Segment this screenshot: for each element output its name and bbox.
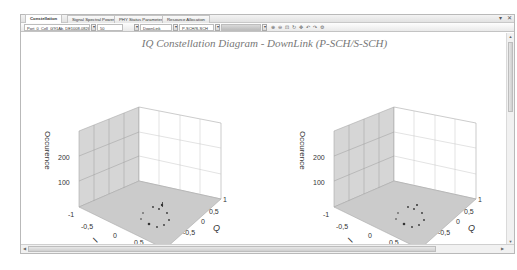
x-axis-label: I — [345, 236, 355, 244]
z-axis-label: Occurence — [298, 131, 307, 170]
tab-resource-allocation[interactable]: Resource Allocation — [162, 15, 210, 23]
tab-phy-status-parameter[interactable]: PHY Status Parameter — [114, 15, 167, 23]
pin-icon[interactable]: ▾ — [499, 14, 502, 21]
pan-icon[interactable]: ✥ — [298, 25, 303, 30]
chart-title: IQ Constellation Diagram - DownLink (P-S… — [21, 37, 508, 49]
direction-select-arrow-icon[interactable]: ▾ — [173, 24, 178, 31]
count-select[interactable]: 50 — [97, 24, 123, 31]
z-tick: 100 — [313, 179, 325, 186]
x-tick: 0 — [368, 232, 372, 239]
y-tick: 0 — [201, 218, 205, 225]
plot-right[interactable]: 200 100 Occurence -1 -0,5 0 0,5 1 I 1 0,… — [286, 59, 496, 249]
y-tick: -0,5 — [183, 229, 195, 236]
cell-select[interactable]: Port_0_Cell_0(91Ab, DE1008-0826, — [24, 24, 90, 31]
x-axis-label: I — [90, 236, 100, 244]
y-axis-label: Q — [213, 223, 220, 233]
plot-left[interactable]: 200 100 Occurence -1 -0,5 0 0,5 1 I 1 0,… — [31, 59, 231, 249]
count-select-arrow-icon[interactable]: ▾ — [134, 24, 139, 31]
rotate-icon[interactable]: ↻ — [291, 25, 296, 30]
y-axis-label: Q — [468, 223, 475, 233]
zoom-fit-icon[interactable]: ⊡ — [284, 25, 289, 30]
range-select-arrow-icon[interactable]: ▾ — [262, 24, 267, 31]
z-tick: 100 — [58, 179, 70, 186]
y-tick: 1 — [223, 196, 227, 203]
cell-select-arrow-icon[interactable]: ▾ — [91, 24, 96, 31]
scroll-up-icon[interactable]: ▲ — [507, 33, 514, 40]
tab-signal-spectral-power[interactable]: Signal Spectral Power — [67, 15, 119, 23]
vertical-scrollbar[interactable]: ▲ ▼ — [506, 33, 514, 245]
redo-icon[interactable]: ↷ — [312, 25, 317, 30]
horizontal-scrollbar[interactable]: ◀ ▶ — [21, 244, 514, 253]
x-tick: -0,5 — [336, 223, 348, 230]
z-tick: 200 — [313, 154, 325, 161]
z-axis-label: Occurence — [43, 131, 52, 170]
horizontal-scroll-thumb[interactable] — [28, 246, 436, 252]
y-tick: -0,5 — [438, 229, 450, 236]
constellation-window: Constellation Signal Spectral Power PHY … — [20, 14, 515, 254]
scroll-right-icon[interactable]: ▶ — [499, 245, 506, 252]
x-tick: -0,5 — [81, 223, 93, 230]
channel-select[interactable]: P-SCH/S-SCH — [179, 24, 214, 31]
range-select[interactable] — [221, 24, 261, 31]
y-tick: 0,5 — [464, 208, 474, 215]
x-tick: -1 — [323, 211, 329, 218]
zoom-out-icon[interactable]: ⊖ — [277, 25, 282, 30]
vertical-scroll-thumb[interactable] — [508, 42, 513, 112]
tab-bar: Constellation Signal Spectral Power PHY … — [21, 15, 514, 23]
tab-constellation[interactable]: Constellation — [25, 14, 62, 23]
x-tick: 0 — [113, 232, 117, 239]
close-icon[interactable]: ✕ — [507, 14, 512, 21]
x-tick: -1 — [68, 211, 74, 218]
y-tick: 0 — [456, 218, 460, 225]
direction-select[interactable]: DownLink — [140, 24, 172, 31]
toolbar: Port_0_Cell_0(91Ab, DE1008-0826, ▾ 50 ▾ … — [21, 23, 514, 32]
zoom-in-icon[interactable]: ⊕ — [270, 25, 275, 30]
scroll-left-icon[interactable]: ◀ — [21, 245, 28, 252]
chart-area: IQ Constellation Diagram - DownLink (P-S… — [21, 33, 508, 245]
settings-icon[interactable]: ⚙ — [319, 25, 324, 30]
y-tick: 1 — [478, 196, 482, 203]
z-tick: 200 — [58, 154, 70, 161]
undo-icon[interactable]: ↶ — [305, 25, 310, 30]
channel-select-arrow-icon[interactable]: ▾ — [215, 24, 220, 31]
y-tick: 0,5 — [209, 208, 219, 215]
